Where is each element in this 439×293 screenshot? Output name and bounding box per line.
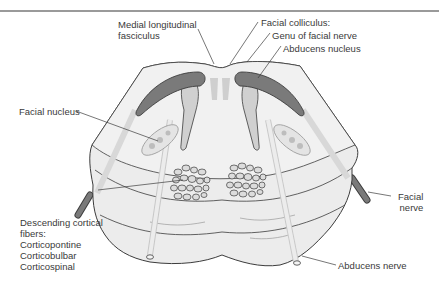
facial-nerve-right — [352, 178, 367, 200]
facial-nerve-left — [78, 195, 90, 215]
label-facial-nucleus: Facial nucleus — [19, 106, 80, 117]
label-facial-nerve: Facial nerve — [398, 191, 423, 213]
label-medial-longitudinal-fasciculus: Medial longitudinal fasciculus — [118, 19, 197, 41]
label-descending-cortical-fibers: Descending cortical fibers: Corticoponti… — [20, 217, 103, 272]
label-genu-facial-nerve: Genu of facial nerve — [272, 30, 357, 41]
label-abducens-nerve: Abducens nerve — [338, 260, 407, 271]
label-facial-colliculus: Facial colliculus: — [261, 17, 330, 28]
label-abducens-nucleus: Abducens nucleus — [283, 43, 361, 54]
